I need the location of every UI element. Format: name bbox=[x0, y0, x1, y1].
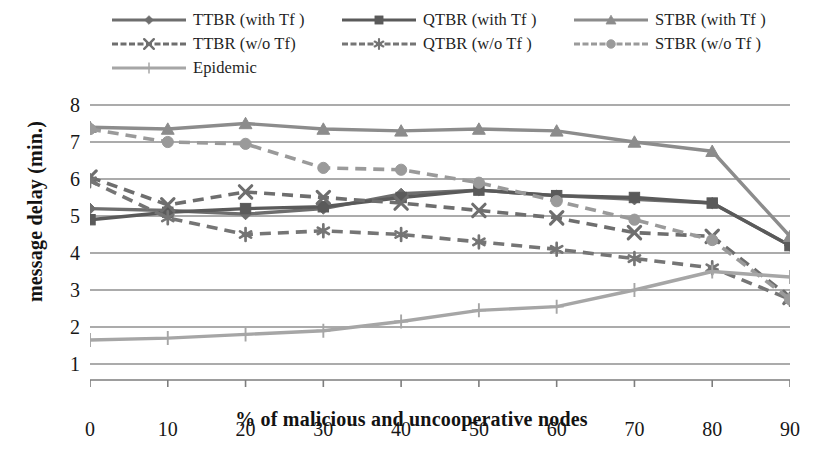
series-line-epidemic bbox=[90, 272, 790, 340]
legend-key-ttbr-with-tf bbox=[112, 11, 186, 29]
marker-plus bbox=[783, 270, 790, 284]
legend-marker-x-icon bbox=[142, 37, 156, 51]
legend-row: Epidemic bbox=[112, 56, 812, 80]
marker-plus bbox=[90, 333, 97, 347]
marker-circle bbox=[318, 162, 329, 173]
legend-label-epidemic: Epidemic bbox=[193, 58, 257, 78]
legend-item-qtbr-wo-tf[interactable]: QTBR (w/o Tf ) bbox=[342, 34, 574, 54]
legend-key-ttbr-wo-tf bbox=[112, 35, 186, 53]
legend-marker-circle-icon bbox=[604, 37, 618, 51]
chart-svg bbox=[90, 92, 790, 392]
legend-key-stbr-with-tf bbox=[574, 11, 648, 29]
marker-asterisk bbox=[375, 39, 384, 49]
y-tick-7: 7 bbox=[52, 131, 80, 154]
marker-plus bbox=[705, 265, 719, 279]
legend-item-stbr-with-tf[interactable]: STBR (with Tf ) bbox=[574, 10, 806, 30]
marker-diamond bbox=[90, 203, 96, 214]
legend-item-ttbr-wo-tf[interactable]: TTBR (w/o Tf) bbox=[112, 34, 342, 54]
legend-row: TTBR (w/o Tf)QTBR (w/o Tf )STBR (w/o Tf … bbox=[112, 32, 812, 56]
marker-circle bbox=[240, 138, 251, 149]
marker-square bbox=[90, 215, 95, 225]
chart-figure: TTBR (with Tf )QTBR (with Tf )STBR (with… bbox=[0, 0, 823, 457]
y-tick-5: 5 bbox=[52, 205, 80, 228]
marker-plus bbox=[161, 331, 175, 345]
legend-key-qtbr-with-tf bbox=[342, 11, 416, 29]
y-tick-6: 6 bbox=[52, 168, 80, 191]
y-axis-title: message delay (min.) bbox=[24, 81, 47, 343]
plot-area-wrapper: message delay (min.) 12345678 0102030405… bbox=[0, 92, 823, 392]
chart-legend: TTBR (with Tf )QTBR (with Tf )STBR (with… bbox=[112, 8, 812, 86]
y-tick-2: 2 bbox=[52, 316, 80, 339]
marker-circle bbox=[707, 234, 718, 245]
legend-key-qtbr-wo-tf bbox=[342, 35, 416, 53]
legend-marker-plus-icon bbox=[142, 61, 156, 75]
x-axis-title: % of malicious and uncooperative nodes bbox=[0, 408, 823, 431]
series-qtbr-with-tf bbox=[90, 185, 790, 251]
marker-square bbox=[629, 192, 639, 202]
x-axis-line bbox=[90, 380, 790, 387]
marker-plus bbox=[627, 283, 641, 297]
y-tick-1: 1 bbox=[52, 353, 80, 376]
legend-label-stbr-with-tf: STBR (with Tf ) bbox=[655, 10, 766, 30]
legend-item-stbr-wo-tf[interactable]: STBR (w/o Tf ) bbox=[574, 34, 806, 54]
marker-square bbox=[707, 198, 717, 208]
plot-canvas bbox=[90, 92, 790, 392]
marker-plus bbox=[144, 63, 155, 74]
marker-circle bbox=[473, 177, 484, 188]
marker-plus bbox=[472, 303, 486, 317]
legend-row: TTBR (with Tf )QTBR (with Tf )STBR (with… bbox=[112, 8, 812, 32]
legend-key-stbr-wo-tf bbox=[574, 35, 648, 53]
marker-circle bbox=[162, 136, 173, 147]
legend-label-qtbr-with-tf: QTBR (with Tf ) bbox=[423, 10, 536, 30]
marker-plus bbox=[316, 324, 330, 338]
marker-circle bbox=[551, 196, 562, 207]
legend-label-ttbr-wo-tf: TTBR (w/o Tf) bbox=[193, 34, 296, 54]
legend-item-qtbr-with-tf[interactable]: QTBR (with Tf ) bbox=[342, 10, 574, 30]
series-line-stbr-with-tf bbox=[90, 124, 790, 237]
marker-circle bbox=[629, 214, 640, 225]
marker-plus bbox=[239, 327, 253, 341]
marker-circle bbox=[90, 123, 96, 134]
legend-label-stbr-wo-tf: STBR (w/o Tf ) bbox=[655, 34, 761, 54]
legend-item-epidemic[interactable]: Epidemic bbox=[112, 58, 342, 78]
marker-plus bbox=[550, 300, 564, 314]
legend-label-qtbr-wo-tf: QTBR (w/o Tf ) bbox=[423, 34, 532, 54]
y-tick-8: 8 bbox=[52, 94, 80, 117]
marker-square bbox=[375, 16, 383, 24]
marker-circle bbox=[396, 164, 407, 175]
marker-x bbox=[144, 39, 154, 49]
series-epidemic bbox=[90, 265, 790, 347]
marker-circle bbox=[607, 40, 616, 49]
marker-diamond bbox=[145, 16, 154, 25]
legend-marker-diamond-icon bbox=[142, 13, 156, 27]
y-tick-4: 4 bbox=[52, 242, 80, 265]
legend-label-ttbr-with-tf: TTBR (with Tf ) bbox=[193, 10, 305, 30]
y-axis-tick-labels: 12345678 bbox=[52, 92, 80, 392]
marker-square bbox=[240, 203, 250, 213]
legend-key-epidemic bbox=[112, 59, 186, 77]
legend-item-ttbr-with-tf[interactable]: TTBR (with Tf ) bbox=[112, 10, 342, 30]
y-tick-3: 3 bbox=[52, 279, 80, 302]
series-line-stbr-wo-tf bbox=[90, 129, 790, 299]
marker-triangle bbox=[606, 15, 616, 24]
legend-marker-triangle-icon bbox=[604, 13, 618, 27]
legend-marker-asterisk-icon bbox=[372, 37, 386, 51]
legend-marker-square-icon bbox=[372, 13, 386, 27]
